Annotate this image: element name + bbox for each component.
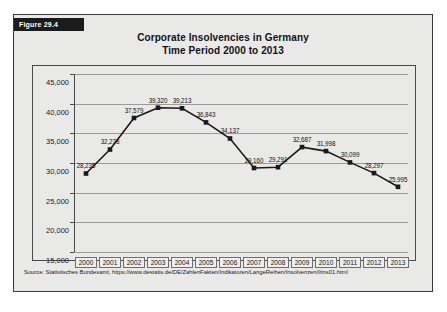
source-note: Source: Statistisches Bundesamt, https:/…	[24, 269, 424, 275]
data-point-marker	[180, 106, 185, 111]
x-axis-year-cell: 2009	[291, 257, 313, 268]
chart-title: Corporate Insolvencies in Germany Time P…	[14, 32, 432, 57]
data-point-marker	[348, 160, 353, 165]
plot-area: 15,00020,00025,00030,00035,00040,00045,0…	[33, 66, 415, 260]
data-point-label: 28,235	[77, 162, 96, 169]
x-axis-year-cell: 2005	[195, 257, 217, 268]
x-axis-year-labels: 2000200120022003200420052006200720082009…	[74, 257, 408, 268]
x-axis-year-cell: 2010	[315, 257, 337, 268]
data-point-label: 32,687	[293, 136, 312, 143]
y-axis-label: 25,000	[46, 196, 69, 205]
x-axis-year-cell: 2001	[99, 257, 121, 268]
data-point-marker	[396, 185, 401, 190]
insolvencies-line-series	[74, 74, 410, 258]
data-point-marker	[372, 171, 377, 176]
data-point-label: 39,213	[173, 97, 192, 104]
data-point-marker	[276, 165, 281, 170]
data-point-marker	[84, 171, 89, 176]
x-axis-year-cell: 2002	[123, 257, 145, 268]
data-point-marker	[108, 147, 113, 152]
x-axis-year-cell: 2013	[387, 257, 409, 268]
data-point-marker	[252, 166, 257, 171]
data-point-label: 29,291	[269, 156, 288, 163]
chart-title-line2: Time Period 2000 to 2013	[14, 45, 432, 58]
x-axis-year-cell: 2004	[171, 257, 193, 268]
y-axis-label: 15,000	[46, 256, 69, 265]
data-point-label: 29,160	[245, 157, 264, 164]
plot-frame: 15,00020,00025,00030,00035,00040,00045,0…	[32, 65, 416, 261]
x-axis-year-cell: 2012	[363, 257, 385, 268]
data-point-marker	[228, 136, 233, 141]
x-axis-year-cell: 2008	[267, 257, 289, 268]
y-axis-label: 45,000	[46, 78, 69, 87]
data-point-marker	[300, 145, 305, 150]
data-point-label: 34,137	[221, 127, 240, 134]
y-axis-label: 35,000	[46, 137, 69, 146]
x-axis-year-cell: 2011	[339, 257, 361, 268]
y-axis-label: 20,000	[46, 226, 69, 235]
x-axis-year-cell: 2000	[75, 257, 97, 268]
data-point-label: 31,998	[317, 140, 336, 147]
x-axis-year-cell: 2007	[243, 257, 265, 268]
y-axis-label: 30,000	[46, 167, 69, 176]
figure-card: Figure 29.4 Corporate Insolvencies in Ge…	[13, 14, 433, 292]
y-axis-label: 40,000	[46, 107, 69, 116]
data-point-label: 30,099	[341, 151, 360, 158]
data-point-label: 25,995	[389, 176, 408, 183]
data-point-label: 32,278	[101, 138, 120, 145]
data-point-label: 39,320	[149, 97, 168, 104]
data-point-marker	[156, 105, 161, 110]
data-point-marker	[132, 116, 137, 121]
data-point-marker	[204, 120, 209, 125]
data-point-marker	[324, 149, 329, 154]
chart-title-line1: Corporate Insolvencies in Germany	[137, 32, 309, 43]
data-point-label: 28,297	[365, 162, 384, 169]
figure-number-tag: Figure 29.4	[14, 18, 84, 31]
data-point-label: 37,579	[125, 107, 144, 114]
x-axis-year-cell: 2003	[147, 257, 169, 268]
x-axis-year-cell: 2006	[219, 257, 241, 268]
data-point-label: 36,843	[197, 111, 216, 118]
